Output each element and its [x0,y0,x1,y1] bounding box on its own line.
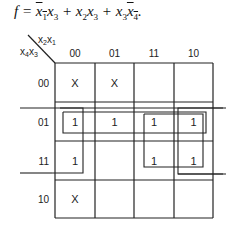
cell-value: 1 [151,155,157,167]
cell-value: 1 [111,116,117,128]
cell-value: 1 [72,155,78,167]
row-header: 00 [38,78,50,89]
cell-value: 1 [151,116,157,128]
column-header: 10 [188,48,200,59]
column-variable-label: x2x1 [38,34,56,46]
row-variable-label: x4x3 [20,46,38,58]
cell-value: X [111,77,119,89]
cell-value: X [71,77,79,89]
cell-value: 1 [190,116,196,128]
row-header: 11 [39,156,50,167]
column-header: 01 [109,48,121,59]
row-header: 10 [38,194,50,205]
column-header: 00 [69,48,81,59]
karnaugh-map: x2x1x4x30001111000011110XX1111111X [0,0,237,228]
column-header: 11 [149,48,160,59]
cell-value: 1 [190,155,196,167]
row-header: 01 [38,117,50,128]
cell-value: X [71,193,79,205]
cell-value: 1 [72,116,78,128]
